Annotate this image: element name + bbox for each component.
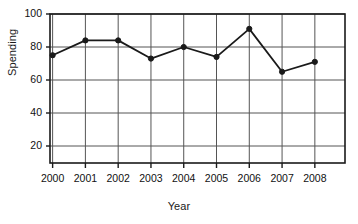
data-point [181,44,186,49]
y-tick-label: 40 [16,106,42,118]
y-tick-label: 100 [16,7,42,19]
data-point [50,53,55,58]
y-tick-label: 60 [16,73,42,85]
line-chart: Spending Year 20406080100200020012002200… [0,0,358,224]
y-axis-title-text: Spending [6,29,18,76]
data-point [116,38,121,43]
data-point [214,54,219,59]
y-tick-label: 80 [16,40,42,52]
data-point [312,59,317,64]
plot-area [0,0,358,224]
data-point [279,69,284,74]
data-point [148,56,153,61]
x-tick-label: 2008 [295,172,335,184]
data-point [83,38,88,43]
plot-frame [50,14,345,163]
data-point [247,26,252,31]
x-axis-title: Year [0,200,358,212]
y-tick-label: 20 [16,139,42,151]
